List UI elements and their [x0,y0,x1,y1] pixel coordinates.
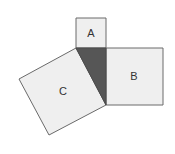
label-c: C [59,85,67,97]
label-a: A [87,27,95,39]
label-b: B [130,70,137,82]
pythagoras-diagram: A B C [0,0,175,154]
